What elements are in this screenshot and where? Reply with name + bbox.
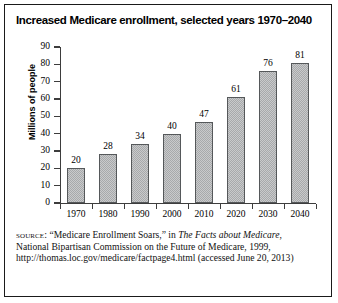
y-tick-label: 30 (16, 146, 50, 156)
y-tick-mark (54, 64, 60, 65)
page-title: Increased Medicare enrollment, selected … (16, 14, 316, 26)
source-line-1b: , (279, 229, 281, 240)
source-line-1a: “Medicare Enrollment Soars,” in (47, 229, 178, 240)
y-tick-mark (54, 150, 60, 151)
bar (99, 154, 118, 203)
x-tick-mark (316, 204, 317, 209)
y-tick-label: 70 (16, 77, 50, 87)
bar-chart: Millions of people 0102030405060708090 1… (16, 37, 322, 219)
x-tick-mark (284, 204, 285, 209)
source-label: source: (16, 229, 47, 240)
y-tick-label: 60 (16, 94, 50, 104)
y-tick-mark (54, 185, 60, 186)
x-tick-mark (220, 204, 221, 209)
bar-value-label: 28 (92, 142, 124, 152)
x-tick-mark (124, 204, 125, 209)
bar (131, 144, 150, 203)
y-tick-mark (54, 46, 60, 47)
bar (163, 134, 182, 203)
x-tick-mark (188, 204, 189, 209)
x-tick-mark (92, 204, 93, 209)
x-tick-label: 2020 (220, 210, 252, 220)
x-tick-label: 2030 (252, 210, 284, 220)
bar-value-label: 47 (188, 110, 220, 120)
source-note: source: “Medicare Enrollment Soars,” in … (16, 229, 316, 264)
source-line-4: June 20, 2013) (237, 252, 294, 263)
y-tick-label: 90 (16, 42, 50, 52)
y-axis-line (60, 47, 61, 204)
x-tick-label: 2040 (284, 210, 316, 220)
y-tick-label: 10 (16, 181, 50, 191)
y-tick-label: 50 (16, 111, 50, 121)
bar (195, 122, 214, 203)
source-line-2: National Bipartisan Commission on the Fu… (16, 241, 271, 252)
y-tick-label: 80 (16, 59, 50, 69)
y-tick-mark (54, 168, 60, 169)
bar-value-label: 76 (252, 59, 284, 69)
y-tick-label: 20 (16, 163, 50, 173)
bar-value-label: 20 (60, 156, 92, 166)
bar-value-label: 81 (284, 51, 316, 61)
x-tick-mark (252, 204, 253, 209)
source-publication-title: The Facts about Medicare (178, 229, 279, 240)
y-tick-mark (54, 116, 60, 117)
source-line-3: http://thomas.loc.gov/medicare/factpage4… (16, 252, 234, 263)
x-tick-mark (60, 204, 61, 209)
figure-frame: Increased Medicare enrollment, selected … (4, 4, 332, 297)
x-tick-label: 2010 (188, 210, 220, 220)
x-tick-label: 2000 (156, 210, 188, 220)
y-tick-label: 40 (16, 129, 50, 139)
bar-value-label: 34 (124, 132, 156, 142)
y-tick-label: 0 (16, 198, 50, 208)
x-tick-label: 1990 (124, 210, 156, 220)
x-tick-label: 1980 (92, 210, 124, 220)
bar (227, 97, 246, 203)
x-tick-label: 1970 (60, 210, 92, 220)
bar (259, 71, 278, 203)
y-tick-mark (54, 133, 60, 134)
x-tick-mark (156, 204, 157, 209)
bar-value-label: 61 (220, 85, 252, 95)
y-tick-mark (54, 98, 60, 99)
bar-value-label: 40 (156, 122, 188, 132)
y-tick-mark (54, 81, 60, 82)
bar (67, 168, 86, 203)
bar (291, 63, 310, 203)
